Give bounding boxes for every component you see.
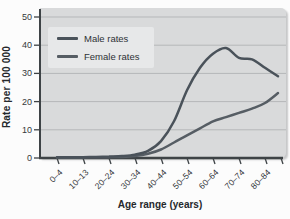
svg-text:10–13: 10–13 bbox=[67, 167, 91, 191]
legend-label-male: Male rates bbox=[84, 34, 128, 44]
legend-item-female: Female rates bbox=[57, 52, 154, 62]
male-line-swatch bbox=[57, 37, 78, 40]
svg-text:70–74: 70–74 bbox=[223, 167, 247, 191]
svg-text:50–54: 50–54 bbox=[171, 167, 195, 191]
y-axis-title: Rate per 100 000 bbox=[1, 22, 15, 152]
svg-text:40: 40 bbox=[22, 40, 32, 50]
legend-item-male: Male rates bbox=[57, 34, 154, 44]
svg-text:20: 20 bbox=[22, 97, 32, 107]
chart-figure: 010203040500–410–1320–2430–3440–4450–546… bbox=[0, 0, 290, 219]
legend-label-female: Female rates bbox=[84, 52, 139, 62]
svg-text:20–24: 20–24 bbox=[93, 167, 117, 191]
svg-text:30–34: 30–34 bbox=[119, 167, 143, 191]
svg-text:80–84: 80–84 bbox=[249, 167, 273, 191]
x-axis-title: Age range (years) bbox=[60, 199, 260, 210]
female-line-swatch bbox=[57, 55, 78, 58]
svg-text:30: 30 bbox=[22, 68, 32, 78]
svg-text:0: 0 bbox=[27, 153, 32, 163]
svg-text:0–4: 0–4 bbox=[47, 167, 64, 184]
svg-text:50: 50 bbox=[22, 12, 32, 22]
svg-text:60–64: 60–64 bbox=[197, 167, 221, 191]
svg-text:10: 10 bbox=[22, 125, 32, 135]
svg-text:40–44: 40–44 bbox=[145, 167, 169, 191]
legend: Male rates Female rates bbox=[48, 27, 154, 68]
